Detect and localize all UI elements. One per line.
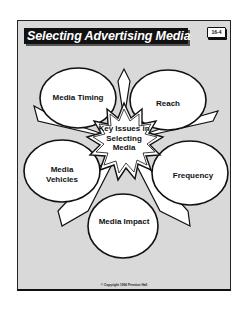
copyright-notice: © Copyright 1996 Prentice Hall xyxy=(18,283,230,287)
issue-label-media-vehicles: Media Vehicles xyxy=(34,165,90,184)
issue-label-media-impact: Media Impact xyxy=(96,217,152,227)
issue-label-frequency: Frequency xyxy=(158,171,228,181)
issue-label-reach: Reach xyxy=(140,99,196,109)
slide: Selecting Advertising Media 16-4 Media T… xyxy=(17,20,231,291)
center-label: Key Issues in Selecting Media xyxy=(98,124,150,153)
diagram-graphic xyxy=(18,21,230,289)
issue-label-media-timing: Media Timing xyxy=(50,93,106,103)
